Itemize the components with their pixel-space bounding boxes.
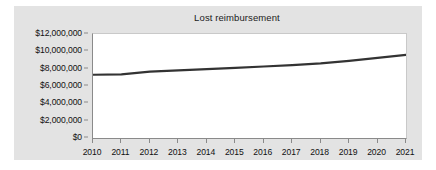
x-tick-mark: [120, 139, 121, 143]
x-tick-label: 2015: [225, 147, 244, 157]
y-tick-mark: [84, 137, 88, 138]
x-tick-label: 2010: [83, 147, 102, 157]
y-tick-mark: [84, 67, 88, 68]
chart-figure: Lost reimbursement $0$2,000,000$4,000,00…: [14, 6, 422, 160]
y-axis: $0$2,000,000$4,000,000$6,000,000$8,000,0…: [14, 33, 88, 137]
x-tick-label: 2013: [168, 147, 187, 157]
x-tick-mark: [177, 139, 178, 143]
y-tick-mark: [84, 33, 88, 34]
x-tick-mark: [320, 139, 321, 143]
chart-title: Lost reimbursement: [14, 12, 422, 23]
x-tick-mark: [348, 139, 349, 143]
y-tick-mark: [84, 102, 88, 103]
x-tick-mark: [234, 139, 235, 143]
x-tick-mark: [377, 139, 378, 143]
x-axis: 2010201120122013201420152016201720182019…: [92, 139, 407, 159]
y-tick-label: $2,000,000: [40, 115, 82, 125]
x-tick-label: 2017: [282, 147, 301, 157]
x-tick-mark: [92, 139, 93, 143]
y-tick-label: $6,000,000: [40, 80, 82, 90]
x-tick-label: 2014: [196, 147, 215, 157]
x-tick-mark: [405, 139, 406, 143]
x-tick-mark: [206, 139, 207, 143]
y-tick-mark: [84, 85, 88, 86]
x-tick-label: 2011: [111, 147, 129, 157]
y-tick-label: $10,000,000: [35, 45, 82, 55]
x-tick-label: 2021: [396, 147, 415, 157]
x-tick-label: 2018: [310, 147, 329, 157]
x-tick-mark: [149, 139, 150, 143]
y-tick-mark: [84, 119, 88, 120]
plot-area: [92, 33, 407, 139]
x-tick-label: 2020: [367, 147, 386, 157]
x-tick-label: 2012: [140, 147, 159, 157]
x-tick-mark: [263, 139, 264, 143]
x-tick-mark: [291, 139, 292, 143]
x-tick-label: 2019: [339, 147, 358, 157]
y-tick-label: $0: [73, 132, 82, 142]
y-tick-mark: [84, 50, 88, 51]
y-tick-label: $8,000,000: [40, 63, 82, 73]
line-series-lost-reimbursement: [93, 34, 406, 138]
y-tick-label: $12,000,000: [35, 28, 82, 38]
x-tick-label: 2016: [253, 147, 272, 157]
y-tick-label: $4,000,000: [40, 97, 82, 107]
